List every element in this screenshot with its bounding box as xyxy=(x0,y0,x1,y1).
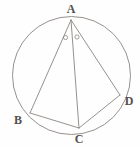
vertex-label-d: D xyxy=(125,95,134,107)
segment-AD xyxy=(71,20,120,95)
angle-mark-bac-icon xyxy=(63,35,67,39)
segment-CD xyxy=(79,95,120,128)
geometry-figure: A B C D xyxy=(0,0,140,146)
vertex-label-c: C xyxy=(75,133,84,145)
vertex-label-a: A xyxy=(67,3,76,15)
angle-mark-cad-icon xyxy=(75,35,79,39)
vertex-label-b: B xyxy=(14,114,22,126)
segment-AB xyxy=(30,20,71,113)
circumcircle xyxy=(13,17,131,135)
segment-BC xyxy=(30,113,79,128)
